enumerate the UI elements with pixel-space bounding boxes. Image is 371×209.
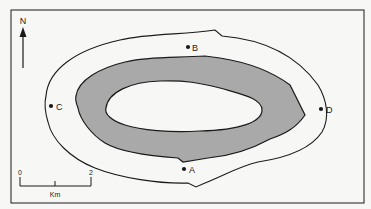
point-C: C bbox=[49, 102, 63, 112]
scale-bar bbox=[20, 177, 91, 186]
shaded-zone bbox=[76, 56, 305, 162]
scale-unit-label: Km bbox=[50, 191, 61, 198]
scale-start-label: 0 bbox=[18, 169, 22, 176]
point-marker-icon bbox=[182, 167, 186, 171]
point-label-A: A bbox=[189, 165, 195, 175]
point-label-B: B bbox=[192, 43, 198, 53]
point-marker-icon bbox=[186, 45, 190, 49]
point-D: D bbox=[319, 105, 333, 115]
point-marker-icon bbox=[319, 107, 323, 111]
north-arrow-icon bbox=[20, 27, 27, 68]
point-label-C: C bbox=[56, 102, 63, 112]
scale-end-label: 2 bbox=[89, 169, 93, 176]
map-figure: N B C D A 0 2 Km bbox=[0, 0, 371, 209]
point-B: B bbox=[186, 43, 198, 53]
point-A: A bbox=[182, 165, 195, 175]
map-frame bbox=[11, 10, 364, 203]
north-label: N bbox=[20, 16, 27, 26]
point-marker-icon bbox=[49, 104, 53, 108]
point-label-D: D bbox=[326, 105, 333, 115]
